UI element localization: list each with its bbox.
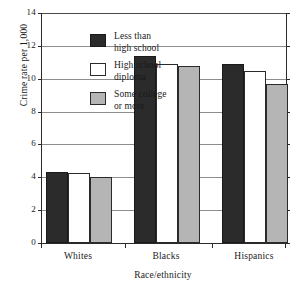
legend-item-label: High school diploma xyxy=(114,60,161,83)
bar xyxy=(68,173,90,243)
x-axis-tick-mark xyxy=(212,243,213,248)
y-axis-tick-label: 0 xyxy=(6,238,36,247)
x-axis-tick-mark xyxy=(41,243,42,248)
y-axis-tick-label: 6 xyxy=(6,139,36,148)
legend-item: Less than high school xyxy=(90,32,210,58)
x-axis-title: Race/ethnicity xyxy=(41,270,285,280)
x-axis-tick-mark xyxy=(125,243,126,248)
dark-swatch xyxy=(90,34,106,47)
bar xyxy=(244,71,266,244)
y-axis-tick-label: 12 xyxy=(6,41,36,50)
legend-item-label: Some college or more xyxy=(114,89,167,112)
y-axis-tick-mark xyxy=(286,79,290,80)
legend-item: High school diploma xyxy=(90,61,210,87)
bar-chart-figure: Crime rate per 1,000 02468101214 Less th… xyxy=(0,0,303,296)
legend-item: Some college or more xyxy=(90,90,210,116)
y-axis-tick-labels: 02468101214 xyxy=(0,0,36,296)
bar xyxy=(90,177,112,243)
y-axis-tick-label: 10 xyxy=(6,74,36,83)
legend: Less than high schoolHigh school diploma… xyxy=(90,32,210,119)
y-axis-tick-label: 8 xyxy=(6,107,36,116)
white-swatch xyxy=(90,63,106,76)
x-axis-tick-mark xyxy=(285,243,286,248)
y-axis-tick-label: 14 xyxy=(6,8,36,17)
x-axis-category-label-blacks: Blacks xyxy=(121,251,211,261)
x-axis-category-label-hispanics: Hispanics xyxy=(209,251,299,261)
plot-area: Less than high schoolHigh school diploma… xyxy=(41,13,287,243)
x-axis-line xyxy=(41,243,287,244)
gray-swatch xyxy=(90,92,106,105)
bar xyxy=(222,64,244,243)
bar xyxy=(266,84,288,243)
y-axis-tick-label: 2 xyxy=(6,205,36,214)
y-axis-tick-label: 4 xyxy=(6,172,36,181)
y-axis-tick-mark xyxy=(286,13,290,14)
bar xyxy=(46,172,68,243)
x-axis-category-label-whites: Whites xyxy=(33,251,123,261)
legend-item-label: Less than high school xyxy=(114,31,159,54)
y-axis-tick-mark xyxy=(286,46,290,47)
